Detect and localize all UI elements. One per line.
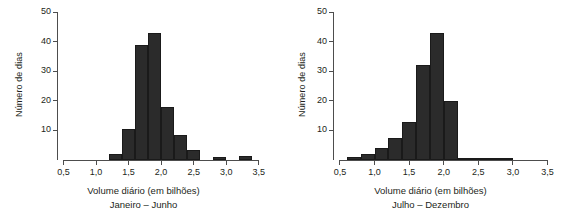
histogram-bar <box>122 129 135 160</box>
histogram-bar <box>174 135 187 160</box>
y-tick <box>53 12 58 13</box>
histogram-bar <box>402 122 416 160</box>
histogram-bar <box>213 157 226 160</box>
x-axis-label: Volume diário (em bilhões) <box>0 185 287 196</box>
panel-janeiro-junho: Número de dias 10203040500,51,01,52,02,5… <box>0 0 287 222</box>
histogram-bar <box>444 101 458 160</box>
x-tick-label: 3,0 <box>499 167 527 177</box>
histogram-bar <box>148 33 161 160</box>
y-tick-label: 30 <box>25 65 51 75</box>
histogram-bar <box>361 154 375 160</box>
x-tick <box>63 160 64 165</box>
panel-caption: Janeiro – Junho <box>0 199 287 210</box>
histogram-bar <box>485 158 499 160</box>
y-axis-line <box>57 12 58 160</box>
x-tick-label: 1,0 <box>82 167 110 177</box>
histogram-bar <box>239 156 252 160</box>
histogram-bar <box>416 65 430 160</box>
y-axis-label: Número de dias <box>14 0 28 172</box>
x-tick <box>128 160 129 165</box>
x-tick-label: 1,5 <box>395 167 423 177</box>
x-tick-label: 2,0 <box>430 167 458 177</box>
histogram-bar <box>471 158 485 160</box>
y-tick-label: 50 <box>301 6 327 16</box>
x-tick <box>443 160 444 165</box>
x-tick <box>193 160 194 165</box>
x-tick <box>161 160 162 165</box>
x-tick <box>478 160 479 165</box>
x-tick-label: 1,0 <box>361 167 389 177</box>
histogram-bar <box>499 158 513 160</box>
y-tick-label: 50 <box>25 6 51 16</box>
histogram-bar <box>430 33 444 160</box>
y-tick-label: 20 <box>25 95 51 105</box>
x-axis-label: Volume diário (em bilhões) <box>287 185 574 196</box>
histogram-bar <box>135 45 148 160</box>
y-tick <box>53 41 58 42</box>
x-tick-label: 0,5 <box>50 167 78 177</box>
x-tick-label: 2,5 <box>464 167 492 177</box>
x-tick <box>409 160 410 165</box>
x-tick <box>226 160 227 165</box>
y-tick-label: 10 <box>301 124 327 134</box>
panel-caption: Julho – Dezembro <box>287 199 574 210</box>
histogram-bar <box>161 107 174 160</box>
y-tick-label: 10 <box>25 124 51 134</box>
histogram-bar <box>388 138 402 160</box>
histogram-figure: Número de dias 10203040500,51,01,52,02,5… <box>0 0 574 222</box>
x-tick-label: 1,5 <box>115 167 143 177</box>
y-axis-label: Número de dias <box>297 0 311 172</box>
x-tick-label: 3,5 <box>534 167 562 177</box>
y-axis-line <box>333 12 334 160</box>
x-tick <box>258 160 259 165</box>
histogram-bar <box>187 150 200 160</box>
x-tick <box>512 160 513 165</box>
y-tick <box>329 71 334 72</box>
x-tick <box>374 160 375 165</box>
x-tick-label: 2,0 <box>147 167 175 177</box>
y-tick <box>329 41 334 42</box>
plot-area: 10203040500,51,01,52,02,53,03,5 <box>57 12 262 160</box>
y-tick-label: 40 <box>301 36 327 46</box>
y-tick-label: 40 <box>25 36 51 46</box>
histogram-bar <box>347 157 361 160</box>
y-tick-label: 20 <box>301 95 327 105</box>
histogram-bar <box>458 158 472 160</box>
y-tick <box>53 100 58 101</box>
y-tick <box>53 130 58 131</box>
y-tick <box>329 100 334 101</box>
y-tick <box>53 71 58 72</box>
x-tick-label: 3,5 <box>245 167 273 177</box>
histogram-bar <box>375 148 389 160</box>
x-tick-label: 0,5 <box>326 167 354 177</box>
y-tick <box>329 130 334 131</box>
panel-julho-dezembro: Número de dias 10203040500,51,01,52,02,5… <box>287 0 574 222</box>
plot-area: 10203040500,51,01,52,02,53,03,5 <box>333 12 551 160</box>
y-tick <box>329 12 334 13</box>
y-tick-label: 30 <box>301 65 327 75</box>
x-tick <box>547 160 548 165</box>
x-tick <box>96 160 97 165</box>
histogram-bar <box>109 154 122 160</box>
x-tick-label: 2,5 <box>180 167 208 177</box>
x-tick-label: 3,0 <box>212 167 240 177</box>
x-tick <box>339 160 340 165</box>
